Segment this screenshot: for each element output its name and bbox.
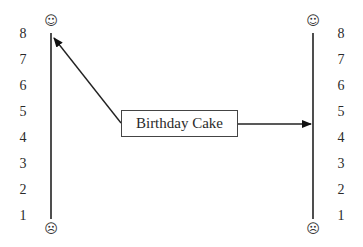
left-tick-label: 7 <box>16 53 30 67</box>
right-tick-label: 6 <box>334 79 348 93</box>
box-label: Birthday Cake <box>136 115 223 132</box>
right-tick-label: 2 <box>334 183 348 197</box>
birthday-cake-box: Birthday Cake <box>121 110 238 137</box>
left-tick-label: 2 <box>16 183 30 197</box>
left-tick-label: 8 <box>16 27 30 41</box>
left-frowning-face-icon: ☹ <box>44 222 58 235</box>
right-tick-label: 7 <box>334 53 348 67</box>
left-smiley-face-icon: ☺ <box>44 14 58 27</box>
left-tick-label: 1 <box>16 209 30 223</box>
arrow-to-left-scale <box>54 38 121 123</box>
right-frowning-face-icon: ☹ <box>306 222 320 235</box>
right-tick-label: 5 <box>334 105 348 119</box>
right-smiley-face-icon: ☺ <box>306 14 320 27</box>
left-tick-label: 4 <box>16 131 30 145</box>
left-tick-label: 6 <box>16 79 30 93</box>
right-tick-label: 8 <box>334 27 348 41</box>
right-tick-label: 1 <box>334 209 348 223</box>
right-tick-label: 4 <box>334 131 348 145</box>
right-tick-label: 3 <box>334 157 348 171</box>
left-tick-label: 5 <box>16 105 30 119</box>
left-tick-label: 3 <box>16 157 30 171</box>
